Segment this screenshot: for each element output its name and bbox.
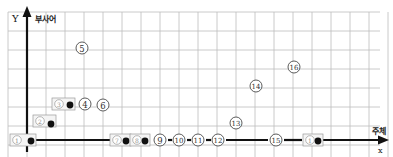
diagram-canvas: Y 부사어 주체 x 123456789101112131415161 (0, 0, 393, 157)
marker-14: 14 (250, 80, 262, 92)
marker-dot-icon (123, 138, 130, 145)
marker-dot-icon (67, 102, 74, 109)
marker-15: 15 (270, 134, 282, 146)
marker-12: 12 (212, 134, 224, 146)
marker-number: 11 (194, 137, 203, 145)
marker-4: 4 (79, 98, 91, 110)
marker-7: 7 (110, 134, 131, 146)
marker-number: 2 (38, 118, 42, 125)
y-axis-letter: Y (11, 13, 19, 24)
marker-number: 1 (15, 137, 19, 144)
marker-number: 1 (308, 137, 312, 144)
y-axis-arrow-icon (23, 6, 32, 17)
markers: 123456789101112131415161 (10, 42, 323, 146)
marker-11: 11 (192, 134, 204, 146)
marker-number: 10 (175, 137, 184, 145)
marker-1: 1 (10, 134, 36, 146)
x-axis-label: 주체 (372, 126, 386, 136)
marker-number: 4 (82, 100, 87, 110)
marker-number: 14 (252, 83, 261, 91)
marker-6: 6 (97, 99, 109, 111)
x-axis-arrow-icon (378, 136, 389, 145)
y-axis-label: 부사어 (35, 14, 56, 24)
marker-number: 6 (100, 101, 105, 111)
marker-2: 2 (33, 115, 56, 127)
coordinate-diagram: Y 부사어 주체 x 123456789101112131415161 (0, 0, 393, 157)
marker-dot-icon (315, 138, 322, 145)
marker-16: 16 (288, 61, 300, 73)
marker-9: 9 (154, 134, 166, 146)
marker-number: 8 (135, 137, 139, 144)
marker-dot-icon (28, 138, 35, 145)
x-axis-letter: x (378, 146, 383, 155)
marker-10: 10 (173, 134, 185, 146)
marker-number: 3 (57, 101, 61, 108)
marker-number: 15 (272, 137, 281, 145)
marker-number: 13 (232, 120, 241, 128)
marker-number: 5 (79, 44, 84, 54)
marker-3: 3 (52, 98, 75, 110)
marker-number: 9 (157, 136, 162, 146)
marker-number: 7 (115, 137, 119, 144)
marker-dot-icon (142, 138, 149, 145)
marker-dot-icon (48, 121, 55, 128)
marker-number: 16 (290, 64, 299, 72)
marker-5: 5 (76, 42, 88, 54)
marker-8: 8 (130, 134, 150, 146)
marker-17: 1 (303, 134, 323, 146)
marker-number: 12 (214, 137, 223, 145)
marker-13: 13 (230, 117, 242, 129)
